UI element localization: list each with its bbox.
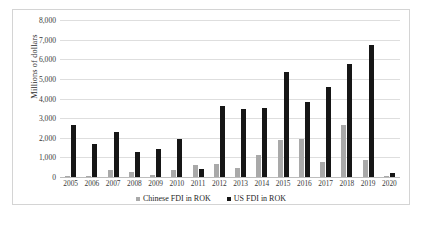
bar [65, 176, 70, 177]
y-axis-tick-label: 2,000 [39, 133, 56, 142]
bar [262, 108, 267, 177]
bar-group [60, 20, 81, 177]
x-axis-tick-label: 2007 [103, 179, 124, 188]
bar [235, 168, 240, 177]
bar [220, 106, 225, 177]
bar [284, 72, 289, 177]
bar-group [145, 20, 166, 177]
x-axis-tick-label: 2010 [166, 179, 187, 188]
bar [341, 125, 346, 177]
x-axis-tick-label: 2008 [124, 179, 145, 188]
bar [199, 169, 204, 177]
bar-group [124, 20, 145, 177]
chart-legend: Chinese FDI in ROKUS FDI in ROK [13, 194, 409, 203]
bar [214, 164, 219, 177]
bar-group [209, 20, 230, 177]
legend-item[interactable]: Chinese FDI in ROK [136, 194, 211, 203]
legend-label: US FDI in ROK [234, 194, 286, 203]
bar [305, 102, 310, 177]
bar-group [166, 20, 187, 177]
bar-group [188, 20, 209, 177]
x-axis-tick-label: 2016 [294, 179, 315, 188]
legend-item[interactable]: US FDI in ROK [227, 194, 286, 203]
x-axis-tick-label: 2013 [230, 179, 251, 188]
chart-container: Millions of dollars 8,0007,0006,0005,000… [12, 9, 410, 205]
x-axis-tick-label: 2015 [273, 179, 294, 188]
y-axis-title: Millions of dollars [30, 7, 39, 127]
bar [278, 140, 283, 177]
bar [320, 162, 325, 177]
x-axis-tick-label: 2005 [60, 179, 81, 188]
y-axis-tick-label: 0 [52, 173, 56, 182]
bar-group [315, 20, 336, 177]
bar [108, 170, 113, 177]
x-axis-tick-label: 2014 [251, 179, 272, 188]
bar-group [379, 20, 400, 177]
x-axis-tick-label: 2018 [336, 179, 357, 188]
x-axis-tick-label: 2009 [145, 179, 166, 188]
axis-baseline: 0 [60, 177, 400, 178]
bar [193, 165, 198, 177]
bar-series-group [60, 20, 400, 177]
x-axis-tick-label: 2006 [81, 179, 102, 188]
bar [241, 109, 246, 177]
bar [92, 144, 97, 177]
x-axis-tick-label: 2011 [188, 179, 209, 188]
bar-group [294, 20, 315, 177]
y-axis-tick-label: 5,000 [39, 74, 56, 83]
legend-label: Chinese FDI in ROK [143, 194, 211, 203]
x-axis-tick-label: 2012 [209, 179, 230, 188]
plot-area: 8,0007,0006,0005,0004,0003,0002,0001,000… [60, 20, 400, 177]
bar [299, 139, 304, 177]
bar [369, 45, 374, 177]
y-axis-tick-label: 3,000 [39, 114, 56, 123]
bar [156, 149, 161, 177]
bar [363, 160, 368, 177]
bar [390, 173, 395, 178]
bar-group [336, 20, 357, 177]
bar [177, 139, 182, 177]
bar [114, 132, 119, 177]
bar [135, 152, 140, 177]
y-axis-tick-label: 4,000 [39, 94, 56, 103]
bar [129, 172, 134, 177]
legend-swatch-icon [227, 197, 231, 201]
bar [256, 155, 261, 177]
y-axis-tick-label: 1,000 [39, 153, 56, 162]
y-axis-tick-label: 6,000 [39, 55, 56, 64]
bar-group [273, 20, 294, 177]
bar-group [103, 20, 124, 177]
bar-group [358, 20, 379, 177]
x-axis-tick-labels: 2005200620072008200920102011201220132014… [60, 179, 400, 188]
bar [150, 175, 155, 177]
bar-group [230, 20, 251, 177]
bar-group [251, 20, 272, 177]
bar [86, 176, 91, 177]
legend-swatch-icon [136, 197, 140, 201]
x-axis-tick-label: 2017 [315, 179, 336, 188]
y-axis-tick-label: 7,000 [39, 35, 56, 44]
bar [171, 170, 176, 177]
bar [347, 64, 352, 177]
bar [71, 125, 76, 177]
bar-group [81, 20, 102, 177]
y-axis-tick-label: 8,000 [39, 16, 56, 25]
bar [326, 87, 331, 177]
bar [384, 176, 389, 177]
x-axis-tick-label: 2019 [358, 179, 379, 188]
x-axis-tick-label: 2020 [379, 179, 400, 188]
